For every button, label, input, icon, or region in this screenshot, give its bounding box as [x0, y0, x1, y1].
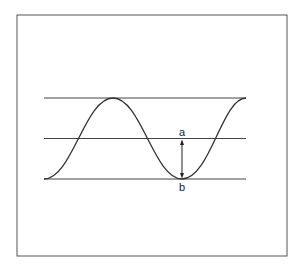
wave-diagram: a b [0, 0, 301, 267]
arrow-head-up-icon [180, 140, 184, 146]
arrow-head-down-icon [180, 173, 184, 179]
label-b: b [179, 181, 185, 193]
diagram-frame [17, 15, 287, 256]
label-a: a [179, 126, 186, 138]
